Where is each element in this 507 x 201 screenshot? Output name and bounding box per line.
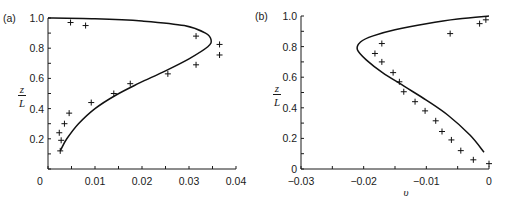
y-tick-label: 0.8 [282,41,297,53]
x-tick-label: 0.04 [226,175,247,187]
y-tick-label: 0 [291,163,297,175]
x-axis-label: υ [403,186,408,198]
theory-curve [357,16,489,152]
y-tick-label: 0.6 [282,71,297,83]
data-point-plus-marker [193,33,199,39]
data-point-plus-marker [193,62,199,68]
x-tick-label: 0.02 [132,175,153,187]
y-axis-label-numerator: z [274,82,280,94]
x-tick-label: −0.03 [288,175,315,187]
data-point-plus-marker [448,137,454,143]
y-tick-label: 1.0 [29,12,44,24]
y-axis-label-numerator: z [19,83,25,95]
y-tick-label: 0.2 [282,132,297,144]
theory-curve [48,18,211,151]
data-point-plus-marker [401,89,407,95]
y-tick-label: 0.8 [29,42,44,54]
x-tick-label: 0 [37,175,43,187]
data-point-plus-marker [422,108,428,114]
y-tick-label: 0.2 [29,133,44,145]
panel-b: 00.20.40.60.81.0−0.03−0.02−0.010(b)zLυ [255,10,492,198]
y-axis-label-denominator: L [18,97,25,109]
data-point-plus-marker [483,17,489,23]
data-point-plus-marker [68,20,74,26]
data-point-plus-marker [379,59,385,65]
x-tick-label: −0.02 [350,175,377,187]
data-point-plus-marker [217,52,223,58]
data-point-plus-marker [88,100,94,106]
y-tick-label: 0.6 [29,72,44,84]
data-point-plus-marker [165,71,171,77]
data-point-plus-marker [372,50,378,56]
x-tick-label: −0.01 [413,175,440,187]
data-point-plus-marker [56,130,62,136]
figure: 0.20.40.60.81.000.010.020.030.04(a)zL 00… [0,0,507,201]
y-tick-label: 0.4 [29,103,44,115]
data-point-plus-marker [439,129,445,135]
data-point-plus-marker [412,99,418,105]
x-tick-label: 0 [486,175,492,187]
data-point-plus-marker [477,21,483,27]
y-tick-label: 0.4 [282,102,297,114]
y-tick-label: 1.0 [282,10,297,22]
panel-label: (a) [3,12,16,24]
data-point-plus-marker [58,137,64,143]
data-point-plus-marker [83,23,89,29]
data-point-plus-marker [486,161,492,167]
data-point-plus-marker [458,148,464,154]
y-axis-label-denominator: L [273,96,280,108]
panel-label: (b) [255,10,268,22]
x-tick-label: 0.01 [85,175,106,187]
data-point-plus-marker [57,148,63,154]
data-point-plus-marker [433,118,439,124]
panel-a: 0.20.40.60.81.000.010.020.030.04(a)zL [3,12,246,187]
data-point-plus-marker [217,41,223,47]
data-point-plus-marker [390,70,396,76]
data-point-plus-marker [66,110,72,116]
x-tick-label: 0.03 [179,175,200,187]
data-point-plus-marker [470,157,476,163]
data-point-plus-marker [379,41,385,47]
data-point-plus-marker [447,31,453,37]
data-point-plus-marker [61,121,67,127]
